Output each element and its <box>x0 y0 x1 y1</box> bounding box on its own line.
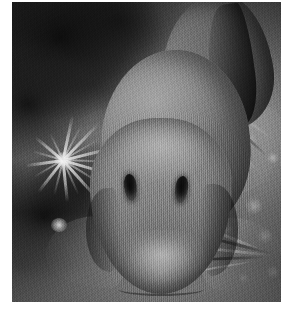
fish-photograph: A grayscale underwater photograph showin… <box>12 2 281 302</box>
vignette <box>12 2 281 302</box>
photo-frame: A grayscale underwater photograph showin… <box>0 0 293 314</box>
